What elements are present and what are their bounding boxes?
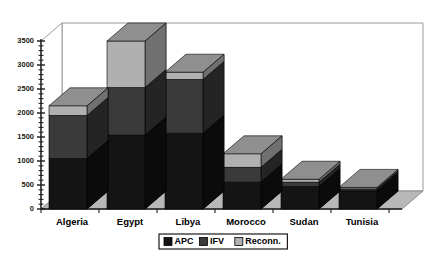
y-axis-labels: 0500100015002000250030003500: [17, 36, 34, 213]
legend-item[interactable]: IFV: [199, 236, 224, 246]
bar-column[interactable]: [165, 54, 224, 209]
x-axis-labels: AlgeriaEgyptLibyaMoroccoSudanTunisia: [56, 216, 379, 227]
legend-swatch: [235, 238, 243, 246]
y-axis-tick-label: 3500: [17, 36, 34, 45]
bar-segment[interactable]: [223, 154, 261, 167]
legend-label: Reconn.: [245, 236, 281, 246]
x-axis-category-label: Morocco: [226, 216, 266, 227]
bar-segment[interactable]: [49, 106, 87, 116]
legend[interactable]: APCIFVReconn.: [159, 234, 287, 249]
bar-column[interactable]: [107, 23, 166, 209]
x-axis-category-label: Tunisia: [346, 216, 379, 227]
stacked-bar-chart-3d: AlgeriaEgyptLibyaMoroccoSudanTunisia 050…: [0, 0, 443, 266]
x-axis-category-label: Sudan: [289, 216, 318, 227]
chart-container: AlgeriaEgyptLibyaMoroccoSudanTunisia 050…: [0, 0, 443, 266]
x-axis-category-label: Libya: [176, 216, 202, 227]
y-axis-tick-label: 3000: [17, 60, 34, 69]
y-axis-tick-label: 1000: [17, 156, 34, 165]
y-axis-tick-label: 1500: [17, 132, 34, 141]
legend-item[interactable]: Reconn.: [235, 236, 281, 246]
y-axis-tick-label: 500: [21, 180, 34, 189]
bar-segment[interactable]: [223, 182, 261, 209]
bar-segment[interactable]: [339, 191, 377, 209]
bar-segment[interactable]: [107, 41, 145, 88]
bar-column[interactable]: [223, 136, 282, 209]
y-axis-tick-label: 0: [30, 204, 34, 213]
bar-segment[interactable]: [165, 133, 203, 209]
legend-label: IFV: [210, 236, 224, 246]
legend-label: APC: [175, 236, 195, 246]
legend-swatch: [199, 238, 207, 246]
bar-column[interactable]: [49, 88, 108, 209]
bar-segment[interactable]: [281, 179, 319, 182]
x-axis-category-label: Algeria: [56, 216, 89, 227]
legend-swatch: [164, 238, 172, 246]
legend-item[interactable]: APC: [164, 236, 194, 246]
bar-segment[interactable]: [49, 115, 87, 158]
bar-segment[interactable]: [107, 88, 145, 136]
y-axis-tick-label: 2500: [17, 84, 34, 93]
bar-segment[interactable]: [165, 79, 203, 133]
bar-segment[interactable]: [281, 186, 319, 209]
bar-segment[interactable]: [281, 182, 319, 186]
bar-segment[interactable]: [49, 159, 87, 209]
bar-segment[interactable]: [223, 167, 261, 182]
bar-segment[interactable]: [107, 135, 145, 209]
x-axis-category-label: Egypt: [117, 216, 144, 227]
bar-segment[interactable]: [165, 72, 203, 79]
y-axis-tick-label: 2000: [17, 108, 34, 117]
